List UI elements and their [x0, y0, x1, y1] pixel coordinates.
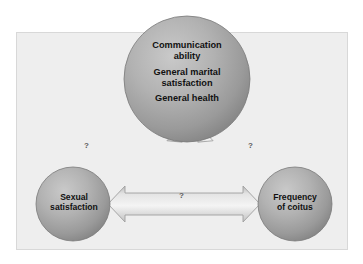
diagram-canvas: [0, 0, 363, 264]
sexual-satisfaction-node: [36, 167, 110, 241]
diagram-root: Communication ability General marital sa…: [0, 0, 363, 264]
frequency-of-coitus-node: [258, 167, 332, 241]
arrow-horizontal-group: [108, 186, 260, 222]
determinants-node: [124, 16, 250, 142]
